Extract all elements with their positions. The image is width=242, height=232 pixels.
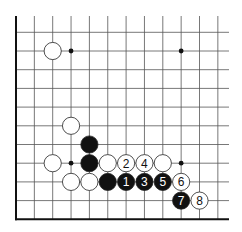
white-stone <box>99 155 116 172</box>
white-stone-6: 6 <box>173 173 190 190</box>
black-stone-5: 5 <box>154 173 171 190</box>
move-number-label: 7 <box>178 194 185 208</box>
white-stone <box>81 173 98 190</box>
white-stone <box>44 42 61 59</box>
white-stone-8: 8 <box>191 192 208 209</box>
black-stone-3: 3 <box>136 173 153 190</box>
white-stone <box>154 155 171 172</box>
white-stone-4: 4 <box>136 155 153 172</box>
move-number-label: 3 <box>141 175 148 189</box>
star-point <box>179 161 184 166</box>
white-stone-2: 2 <box>118 155 135 172</box>
go-board: 24135678 <box>0 0 242 232</box>
stone-disc <box>62 117 79 134</box>
move-number-label: 6 <box>178 175 185 189</box>
stone-disc <box>81 136 98 153</box>
move-number-label: 2 <box>123 157 130 171</box>
move-number-label: 1 <box>123 175 130 189</box>
white-stone <box>62 173 79 190</box>
stone-disc <box>99 155 116 172</box>
star-point <box>69 49 74 54</box>
black-stone-7: 7 <box>173 192 190 209</box>
move-number-label: 4 <box>141 157 148 171</box>
white-stone <box>62 117 79 134</box>
black-stone <box>99 173 116 190</box>
stone-disc <box>154 155 171 172</box>
black-stone <box>81 155 98 172</box>
move-number-label: 8 <box>196 194 203 208</box>
stone-disc <box>62 173 79 190</box>
stone-disc <box>44 155 61 172</box>
star-point <box>179 49 184 54</box>
black-stone <box>81 136 98 153</box>
stone-disc <box>44 42 61 59</box>
stone-disc <box>99 173 116 190</box>
white-stone <box>44 155 61 172</box>
stone-disc <box>81 155 98 172</box>
black-stone-1: 1 <box>118 173 135 190</box>
stone-disc <box>81 173 98 190</box>
move-number-label: 5 <box>159 175 166 189</box>
star-point <box>69 161 74 166</box>
